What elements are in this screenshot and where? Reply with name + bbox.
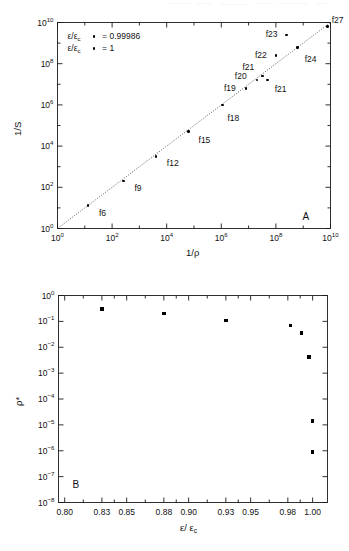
data-point-b-5	[307, 355, 310, 358]
panel-b-ytick--5: 10−5	[38, 421, 54, 430]
panel-a-xtick-8: 108	[269, 234, 282, 243]
data-point-b-7	[311, 450, 314, 453]
panel-b-ytick--4: 10−4	[38, 395, 54, 404]
panel-b-xtick-0.93: 0.93	[218, 508, 235, 517]
data-point-b-6	[311, 419, 314, 422]
legend-symbol-0: ε/εc	[68, 31, 81, 41]
data-point-b-0	[100, 307, 103, 310]
panel-b-ytick--2: 10−2	[38, 343, 54, 352]
panel-a-ytick-0: 100	[41, 224, 54, 233]
data-point-label-f19: f19	[224, 84, 236, 93]
panel-a-ytick-2: 102	[41, 183, 54, 192]
data-point-label-f20: f20	[235, 72, 247, 81]
scan-artifact-5	[316, 3, 328, 4]
panel-b-xtick-0.88: 0.88	[156, 508, 173, 517]
data-point-b-1	[162, 312, 165, 315]
panel-a-xtick-2: 102	[106, 234, 119, 243]
panel-a-legend: ε/εc= 0.99986ε/εc= 1	[68, 31, 141, 55]
legend-marker-1	[93, 47, 96, 50]
panel-b-ytick--3: 10−3	[38, 369, 54, 378]
panel-b-xtick-0.98: 0.98	[280, 508, 297, 517]
data-point-label-f21b: f21	[275, 85, 287, 94]
legend-entry-0: ε/εc= 0.99986	[68, 31, 141, 43]
panel-a-label: A	[303, 211, 310, 222]
panel-a-ytick-4: 104	[41, 142, 54, 151]
data-point-b-3	[289, 324, 292, 327]
panel-b-xtick-0.95: 0.95	[242, 508, 259, 517]
panel-b-ytick--7: 10−7	[38, 472, 54, 481]
data-point-f27	[326, 25, 329, 28]
panel-a-xtick-0: 100	[51, 234, 64, 243]
data-point-label-f27: f27	[332, 16, 344, 25]
legend-value-0: = 0.99986	[102, 31, 140, 41]
panel-a-xtick-6: 106	[215, 234, 228, 243]
panel-a-ytick-8: 108	[41, 59, 54, 68]
panel-a-xaxis-title: 1/ρ	[186, 248, 199, 258]
panel-b-xtick-1.00: 1.00	[304, 508, 321, 517]
panel-a-ytick-6: 106	[41, 101, 54, 110]
scan-artifact-2	[220, 4, 246, 5]
panel-b-ytick-0: 100	[42, 291, 55, 300]
data-point-f18	[221, 104, 224, 107]
legend-value-1: = 1	[102, 43, 114, 53]
data-point-label-f9: f9	[134, 184, 141, 193]
panel-b-xtick-0.85: 0.85	[118, 508, 135, 517]
scan-artifact-3	[256, 3, 270, 4]
data-point-label-f23: f23	[266, 30, 278, 39]
data-point-f15	[187, 130, 190, 133]
data-point-label-f18: f18	[227, 114, 239, 123]
data-point-f6	[87, 204, 90, 207]
panel-b-ytick--8: 10−8	[38, 498, 54, 507]
panel-b-ytick--6: 10−6	[38, 447, 54, 456]
data-point-f24	[296, 46, 299, 49]
panel-b-yaxis-title: ρ*	[14, 397, 24, 406]
panel-b-label: B	[73, 479, 80, 490]
figure-canvas	[0, 0, 349, 551]
scan-artifact-0	[168, 3, 190, 4]
panel-b-ytick--1: 10−1	[38, 317, 54, 326]
panel-b-xtick-0.80: 0.80	[56, 508, 73, 517]
scan-artifact-1	[196, 3, 212, 4]
panel-b-xtick-0.83: 0.83	[94, 508, 111, 517]
panel-a-yaxis-title: 1/S	[13, 121, 23, 135]
panel-b-xaxis-title: ε/ εc	[180, 523, 197, 533]
data-point-label-f24: f24	[305, 55, 317, 64]
figure-root: 100102104106108101010010210410610810100.…	[0, 0, 349, 551]
data-point-label-f22: f22	[255, 51, 267, 60]
panel-b-axes	[59, 296, 328, 503]
data-point-label-f21: f21	[242, 63, 254, 72]
data-point-f19	[245, 87, 248, 90]
data-point-label-f15: f15	[199, 136, 211, 145]
panel-a-xtick-10: 1010	[322, 234, 338, 243]
data-point-b-4	[300, 331, 303, 334]
data-point-label-f6: f6	[99, 209, 106, 218]
data-point-b-2	[224, 319, 227, 322]
panel-b-xtick-0.90: 0.90	[180, 508, 197, 517]
data-point-f22	[275, 54, 278, 57]
data-point-label-f12: f12	[167, 159, 179, 168]
legend-symbol-1: ε/εc	[68, 43, 81, 53]
scan-artifact-4	[278, 3, 308, 4]
legend-entry-1: ε/εc= 1	[68, 43, 141, 55]
legend-marker-0	[93, 35, 96, 38]
panel-a-xtick-4: 104	[160, 234, 173, 243]
panel-a-ytick-10: 1010	[37, 18, 53, 27]
data-point-f12	[155, 155, 158, 158]
